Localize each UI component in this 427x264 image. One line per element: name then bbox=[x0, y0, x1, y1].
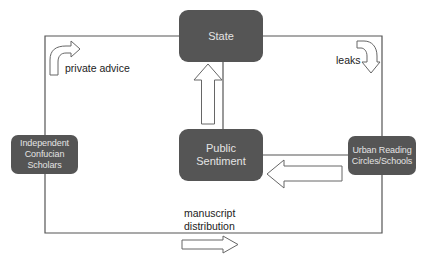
arrow-right-icon bbox=[182, 236, 238, 253]
node-independent-scholars-label-2: Confucian bbox=[25, 149, 65, 160]
label-leaks: leaks bbox=[336, 54, 361, 67]
node-state-label: State bbox=[208, 30, 234, 43]
node-public-sentiment-label-1: Public bbox=[206, 142, 236, 155]
arrow-left-icon bbox=[267, 160, 342, 188]
label-manuscript-line2: distribution bbox=[184, 220, 235, 233]
node-public-sentiment-label-2: Sentiment bbox=[196, 155, 246, 168]
node-independent-scholars-label-1: Independent bbox=[20, 138, 69, 149]
node-urban-reading-label-1: Urban Reading bbox=[352, 145, 411, 156]
node-independent-scholars: Independent Confucian Scholars bbox=[11, 135, 78, 174]
node-public-sentiment: Public Sentiment bbox=[179, 129, 263, 181]
node-urban-reading-label-2: Circles/Schools bbox=[352, 156, 413, 167]
label-manuscript-distribution: manuscript distribution bbox=[184, 207, 235, 233]
arrow-up-icon bbox=[194, 64, 222, 124]
node-state: State bbox=[179, 10, 263, 62]
label-manuscript-line1: manuscript bbox=[184, 207, 235, 220]
node-independent-scholars-label-3: Scholars bbox=[27, 160, 61, 171]
line-state-to-urban bbox=[263, 36, 382, 136]
node-urban-reading: Urban Reading Circles/Schools bbox=[348, 136, 416, 175]
label-private-advice: private advice bbox=[65, 62, 130, 75]
